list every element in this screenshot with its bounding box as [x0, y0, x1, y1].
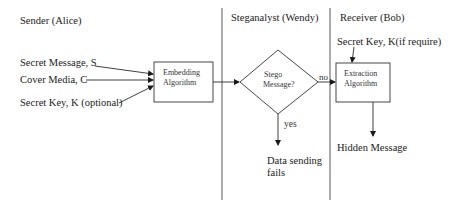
decision-label-line2: Message?: [263, 80, 295, 90]
input-secret-key: Secret Key, K (optional): [20, 97, 123, 109]
fail-outcome-line2: fails: [267, 167, 285, 179]
lane-title-sender: Sender (Alice): [20, 15, 82, 27]
lane-title-steganalyst: Steganalyst (Wendy): [231, 12, 319, 24]
decision-yes-label: yes: [284, 120, 297, 130]
embedding-label-line1: Embedding: [163, 68, 200, 78]
input-secret-message: Secret Message, S: [20, 57, 97, 69]
embedding-label-line2: Algorithm: [163, 78, 196, 88]
hidden-message-output: Hidden Message: [337, 142, 407, 154]
fail-outcome-line1: Data sending: [267, 155, 322, 167]
receiver-secret-key: Secret Key, K(if require): [337, 36, 441, 48]
lane-title-receiver: Receiver (Bob): [340, 12, 404, 24]
decision-label-line1: Stego: [264, 70, 282, 80]
extraction-label-line1: Extraction: [344, 69, 377, 79]
extraction-label-line2: Algorithm: [344, 79, 377, 89]
input-cover-media: Cover Media, C: [20, 74, 87, 86]
decision-no-label: no: [319, 73, 328, 83]
